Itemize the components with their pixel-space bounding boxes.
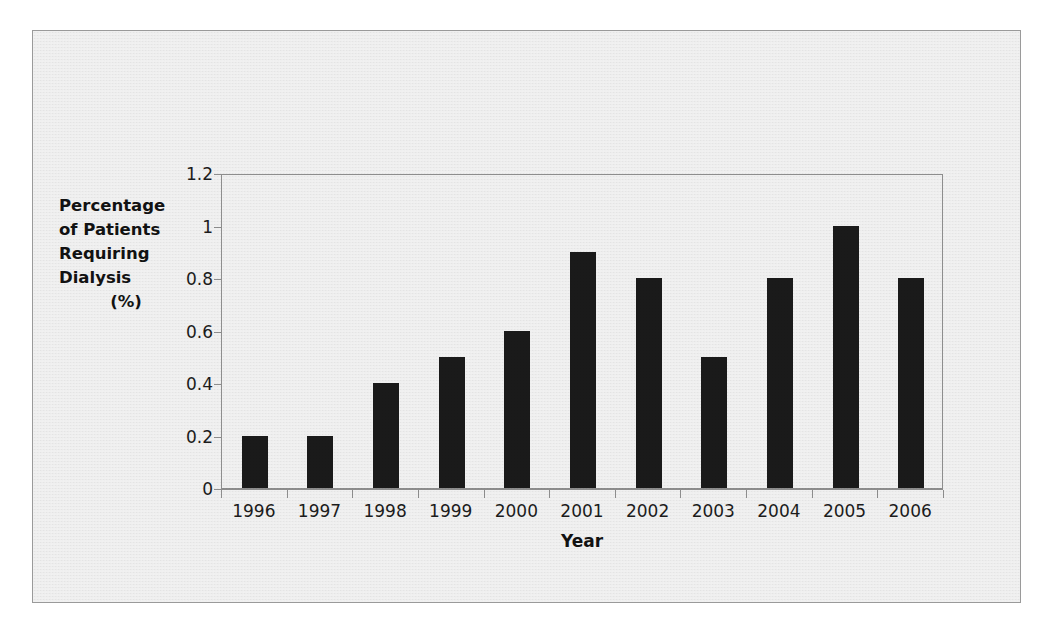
- bar-1999: [439, 357, 465, 488]
- bars-layer: [222, 175, 942, 488]
- bar-slot: [288, 175, 354, 488]
- bar-2002: [636, 278, 662, 488]
- bar-slot: [681, 175, 747, 488]
- x-tick-label-2004: 2004: [757, 503, 800, 520]
- bar-1997: [307, 436, 333, 489]
- bar-slot: [813, 175, 879, 488]
- x-tick-mark: [812, 490, 813, 498]
- x-tick-label-2001: 2001: [560, 503, 603, 520]
- bar-slot: [550, 175, 616, 488]
- x-tick-label-2000: 2000: [495, 503, 538, 520]
- y-tick-label: 0.6: [153, 323, 213, 340]
- x-tick-mark: [287, 490, 288, 498]
- bar-2006: [898, 278, 924, 488]
- x-axis-line: [221, 489, 943, 490]
- bar-slot: [222, 175, 288, 488]
- y-tick-labels: 00.20.40.60.811.2: [139, 31, 213, 602]
- x-tick-label-1997: 1997: [298, 503, 341, 520]
- x-tick-mark: [549, 490, 550, 498]
- plot-area: [221, 174, 943, 489]
- bar-slot: [878, 175, 944, 488]
- bar-slot: [353, 175, 419, 488]
- x-tick-label-1996: 1996: [232, 503, 275, 520]
- bar-2003: [701, 357, 727, 488]
- x-tick-label-1999: 1999: [429, 503, 472, 520]
- bar-2005: [833, 226, 859, 489]
- x-tick-mark: [484, 490, 485, 498]
- y-tick-label: 0: [153, 481, 213, 498]
- x-tick-mark: [418, 490, 419, 498]
- x-tick-mark: [680, 490, 681, 498]
- x-tick-mark: [746, 490, 747, 498]
- y-tick-mark: [214, 227, 222, 228]
- x-tick-label-2002: 2002: [626, 503, 669, 520]
- bar-slot: [747, 175, 813, 488]
- y-tick-label: 1.2: [153, 166, 213, 183]
- x-tick-label-2005: 2005: [823, 503, 866, 520]
- y-tick-label: 1: [153, 218, 213, 235]
- x-tick-label-2006: 2006: [889, 503, 932, 520]
- bar-2004: [767, 278, 793, 488]
- figure-frame: Percentage of Patients Requiring Dialysi…: [32, 30, 1021, 603]
- x-tick-mark: [943, 490, 944, 498]
- y-tick-mark: [214, 384, 222, 385]
- x-tick-mark: [352, 490, 353, 498]
- y-tick-mark: [214, 332, 222, 333]
- x-axis-title: Year: [221, 531, 943, 551]
- x-tick-label-2003: 2003: [692, 503, 735, 520]
- x-tick-mark: [221, 490, 222, 498]
- bar-1996: [242, 436, 268, 489]
- bar-2001: [570, 252, 596, 488]
- bar-slot: [616, 175, 682, 488]
- x-tick-mark: [615, 490, 616, 498]
- bar-2000: [504, 331, 530, 489]
- y-tick-label: 0.4: [153, 376, 213, 393]
- y-tick-mark: [214, 279, 222, 280]
- x-tick-label-1998: 1998: [363, 503, 406, 520]
- y-tick-label: 0.8: [153, 271, 213, 288]
- bar-slot: [485, 175, 551, 488]
- y-tick-mark: [214, 174, 222, 175]
- y-tick-label: 0.2: [153, 428, 213, 445]
- x-tick-mark: [877, 490, 878, 498]
- bar-slot: [419, 175, 485, 488]
- bar-1998: [373, 383, 399, 488]
- y-tick-mark: [214, 437, 222, 438]
